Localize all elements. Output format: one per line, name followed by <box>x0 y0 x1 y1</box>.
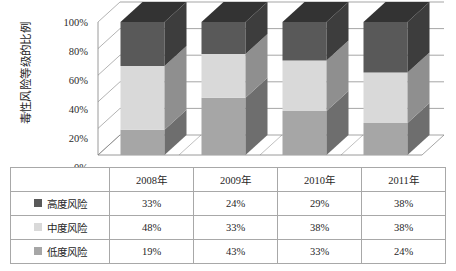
y-axis-tick-label: 20% <box>40 133 88 144</box>
bar-segment-front <box>283 111 327 155</box>
table-row: 高度风险33%24%29%38% <box>11 192 446 216</box>
y-axis-tick-label: 100% <box>40 17 88 28</box>
y-axis-tick-label: 40% <box>40 104 88 115</box>
legend-label: 中度风险 <box>47 222 87 234</box>
table-corner-cell <box>11 168 110 192</box>
bar-group <box>283 2 349 155</box>
legend-swatch-icon <box>34 223 42 231</box>
bar-segment-front <box>283 22 327 61</box>
gridline-depth-connector <box>98 55 120 75</box>
y-axis-tick-label: 60% <box>40 75 88 86</box>
table-column-header-2009年: 2009年 <box>194 168 278 192</box>
legend-item-中度风险[interactable]: 中度风险 <box>11 216 110 240</box>
table-row: 中度风险48%33%38%38% <box>11 216 446 240</box>
bar-segment-front <box>121 22 165 66</box>
table-cell-value: 24% <box>362 240 446 264</box>
bar-segment-front <box>202 54 246 98</box>
bar-segment-front <box>364 123 408 155</box>
table-column-header-2011年: 2011年 <box>362 168 446 192</box>
table-cell-value: 33% <box>194 216 278 240</box>
table-cell-value: 24% <box>194 192 278 216</box>
table-cell-value: 19% <box>110 240 194 264</box>
y-axis-tick-label: 80% <box>40 46 88 57</box>
table-cell-value: 43% <box>194 240 278 264</box>
bar-segment-front <box>364 22 408 73</box>
bar-segment-front <box>283 61 327 112</box>
table-cell-value: 38% <box>362 192 446 216</box>
axis-floor-left-depth <box>98 135 120 155</box>
y-axis-title: 毒性风险等级的比例 <box>17 3 35 143</box>
legend-swatch-icon <box>34 247 42 255</box>
table-column-header-2008年: 2008年 <box>110 168 194 192</box>
gridline-depth-connector <box>98 2 120 22</box>
legend-item-高度风险[interactable]: 高度风险 <box>11 192 110 216</box>
table-cell-value: 33% <box>278 240 362 264</box>
table-cell-value: 38% <box>278 216 362 240</box>
data-table: 2008年2009年2010年2011年高度风险33%24%29%38%中度风险… <box>10 167 446 264</box>
y-axis-tick-labels: 100%80%60%40%20%0% <box>40 22 90 167</box>
table-column-header-2010年: 2010年 <box>278 168 362 192</box>
bar-group <box>202 2 268 155</box>
gridline-depth-connector <box>98 108 120 128</box>
bar-segment-front <box>121 66 165 130</box>
legend-label: 高度风险 <box>47 198 87 210</box>
gridline-depth-connector <box>98 29 120 49</box>
data-table-wrapper: 2008年2009年2010年2011年高度风险33%24%29%38%中度风险… <box>10 167 446 263</box>
bar-segment-front <box>364 73 408 124</box>
legend-label: 低度风险 <box>47 246 87 258</box>
table-cell-value: 29% <box>278 192 362 216</box>
plot-canvas <box>92 12 448 167</box>
legend-swatch-icon <box>34 199 42 207</box>
plot-area <box>92 12 448 167</box>
bar-segment-front <box>202 98 246 155</box>
gridline-depth-connector <box>98 82 120 102</box>
legend-item-低度风险[interactable]: 低度风险 <box>11 240 110 264</box>
table-cell-value: 48% <box>110 216 194 240</box>
chart-figure: 毒性风险等级的比例 100%80%60%40%20%0% 2008年2009年2… <box>0 0 456 271</box>
bar-segment-front <box>121 130 165 155</box>
table-header-row: 2008年2009年2010年2011年 <box>11 168 446 192</box>
bar-group <box>364 2 430 155</box>
table-cell-value: 38% <box>362 216 446 240</box>
table-row: 低度风险19%43%33%24% <box>11 240 446 264</box>
bar-group <box>121 2 187 155</box>
table-cell-value: 33% <box>110 192 194 216</box>
bar-segment-front <box>202 22 246 54</box>
